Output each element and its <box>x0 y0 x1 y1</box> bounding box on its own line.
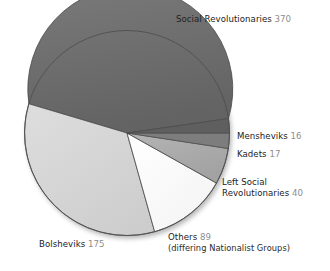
pie-label-kadets-text: Kadets <box>237 149 267 159</box>
pie-label-bolsheviks: Bolsheviks 175 <box>39 239 105 250</box>
pie-label-bolsheviks-text: Bolsheviks <box>39 239 85 249</box>
pie-label-mensheviks: Mensheviks 16 <box>237 131 302 142</box>
pie-label-social-revolutionaries: Social Revolutionaries 370 <box>176 14 291 25</box>
pie-label-mensheviks-text: Mensheviks <box>237 131 288 141</box>
pie-label-mensheviks-value: 16 <box>291 131 302 141</box>
pie-label-bolsheviks-value: 175 <box>88 239 105 249</box>
pie-label-kadets: Kadets 17 <box>237 149 280 160</box>
pie-label-left-social-revolutionaries: Left Social Revolutionaries 40 <box>222 177 303 199</box>
pie-label-left-social-revolutionaries-value: 40 <box>292 188 303 198</box>
pie-chart-figure: Social Revolutionaries 370 Mensheviks 16… <box>0 0 330 271</box>
pie-label-left-social-revolutionaries-line2: Revolutionaries <box>222 188 289 198</box>
pie-label-social-revolutionaries-value: 370 <box>275 14 292 24</box>
pie-label-others: Others 89 (differing Nationalist Groups) <box>168 232 290 254</box>
pie-label-others-note: (differing Nationalist Groups) <box>168 243 290 254</box>
pie-label-social-revolutionaries-text: Social Revolutionaries <box>176 14 272 24</box>
pie-label-others-value: 89 <box>200 232 211 242</box>
pie-label-kadets-value: 17 <box>269 149 280 159</box>
pie-label-others-text: Others <box>168 232 197 242</box>
pie-label-left-social-revolutionaries-line1: Left Social <box>222 177 267 187</box>
